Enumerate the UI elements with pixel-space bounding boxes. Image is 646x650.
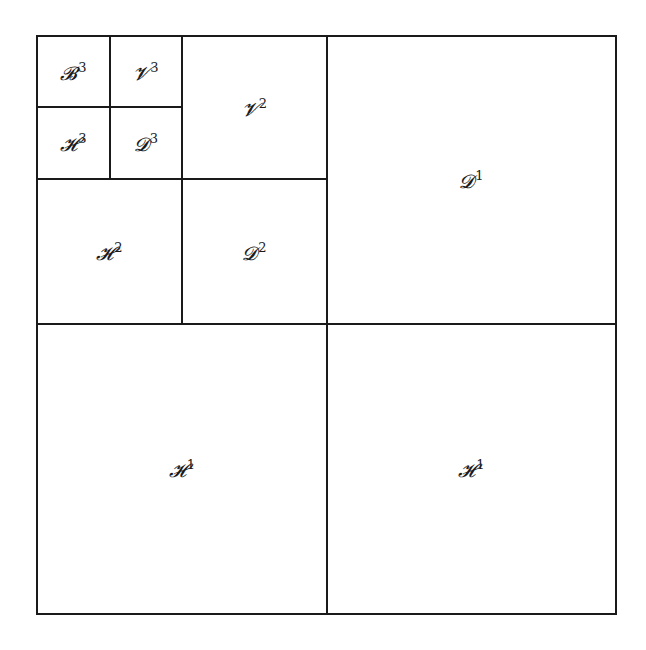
subband-v3: 𝓥3 bbox=[109, 35, 183, 108]
subband-h1-right: 𝓗1 bbox=[326, 323, 617, 615]
label-h1-left: 𝓗1 bbox=[169, 458, 195, 480]
subband-b3: 𝓑3 bbox=[36, 35, 111, 108]
subband-v2: 𝓥2 bbox=[181, 35, 328, 180]
subband-h1-left: 𝓗1 bbox=[36, 323, 328, 615]
label-d2: 𝓓2 bbox=[242, 241, 266, 263]
label-h1-right: 𝓗1 bbox=[458, 458, 484, 480]
subband-d1: 𝓓1 bbox=[326, 35, 617, 325]
subband-d3: 𝓓3 bbox=[109, 106, 183, 180]
label-h2: 𝓗2 bbox=[96, 241, 122, 263]
label-h3: 𝓗3 bbox=[60, 132, 86, 154]
subband-d2: 𝓓2 bbox=[181, 178, 328, 325]
label-v2: 𝓥2 bbox=[242, 97, 267, 119]
subband-h2: 𝓗2 bbox=[36, 178, 183, 325]
label-d1: 𝓓1 bbox=[459, 169, 483, 191]
label-d3: 𝓓3 bbox=[134, 132, 158, 154]
subband-decomposition-diagram: 𝓑3 𝓥3 𝓗3 𝓓3 𝓥2 𝓗2 𝓓2 𝓓1 𝓗1 𝓗1 bbox=[0, 0, 646, 650]
label-b3: 𝓑3 bbox=[60, 61, 86, 83]
label-v3: 𝓥3 bbox=[133, 61, 158, 83]
subband-h3: 𝓗3 bbox=[36, 106, 111, 180]
